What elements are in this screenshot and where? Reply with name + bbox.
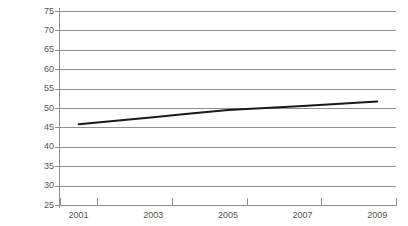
line-chart: 75 70 65 60 55 50 45 40 35 30 25 2001 20… — [0, 0, 408, 226]
data-line-series-0 — [79, 101, 378, 124]
series-layer — [0, 0, 408, 226]
